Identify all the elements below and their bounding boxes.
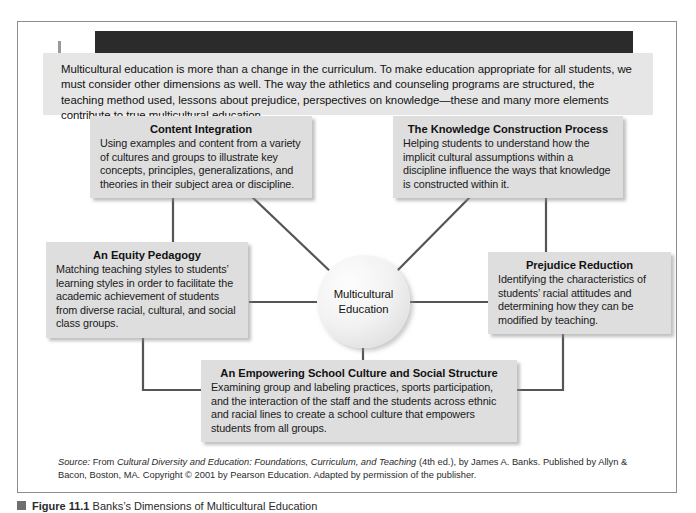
- center-label-line2: Education: [339, 303, 389, 315]
- concept-title: An Equity Pedagogy: [56, 248, 238, 262]
- connector-equity-to-empowering: [143, 332, 201, 390]
- source-note: Source: From Cultural Diversity and Educ…: [58, 456, 658, 481]
- concept-box-equity-pedagogy[interactable]: An Equity Pedagogy Matching teaching sty…: [46, 242, 248, 338]
- concept-title: An Empowering School Culture and Social …: [211, 366, 507, 380]
- concept-body: Matching teaching styles to students’ le…: [56, 263, 238, 331]
- concept-box-empowering-culture[interactable]: An Empowering School Culture and Social …: [201, 360, 517, 442]
- connector-content-to-center: [249, 194, 333, 274]
- connector-knowledge-to-center: [394, 194, 473, 274]
- caption-label: Figure: [32, 500, 66, 512]
- concept-box-prejudice-reduction[interactable]: Prejudice Reduction Identifying the char…: [488, 252, 671, 334]
- concept-box-knowledge-construction[interactable]: The Knowledge Construction Process Helpi…: [393, 116, 623, 198]
- source-work-title: Cultural Diversity and Education: Founda…: [117, 457, 416, 467]
- concept-body: Identifying the characteristics of stude…: [498, 273, 661, 327]
- intro-paragraph-text: Multicultural education is more than a c…: [61, 62, 637, 124]
- connector-prejudice-to-empowering: [517, 332, 563, 390]
- intro-paragraph-panel: Multicultural education is more than a c…: [43, 53, 653, 115]
- center-label-line1: Multicultural: [334, 288, 394, 300]
- top-dark-bar: [95, 31, 633, 53]
- caption-number: 11.1: [69, 500, 90, 512]
- figure-caption: Figure 11.1 Banks’s Dimensions of Multic…: [17, 500, 677, 513]
- concept-body: Using examples and content from a variet…: [100, 137, 302, 191]
- caption-text: Figure 11.1 Banks’s Dimensions of Multic…: [32, 500, 317, 513]
- concept-title: The Knowledge Construction Process: [403, 122, 613, 136]
- center-circle-label: Multicultural Education: [334, 287, 394, 316]
- concept-title: Content Integration: [100, 122, 302, 136]
- source-label: Source:: [58, 457, 90, 467]
- caption-title: Banks’s Dimensions of Multicultural Educ…: [93, 500, 318, 512]
- concept-box-content-integration[interactable]: Content Integration Using examples and c…: [90, 116, 312, 198]
- caption-marker-icon: [17, 501, 26, 510]
- concept-body: Helping students to understand how the i…: [403, 137, 613, 191]
- figure-frame: Multicultural education is more than a c…: [17, 21, 677, 493]
- source-lead: From: [90, 457, 117, 467]
- concept-body: Examining group and labeling practices, …: [211, 381, 507, 435]
- concept-title: Prejudice Reduction: [498, 258, 661, 272]
- center-circle-multicultural-education[interactable]: Multicultural Education: [317, 255, 410, 348]
